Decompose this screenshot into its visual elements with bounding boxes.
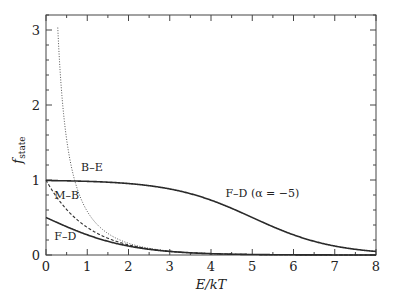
plot-frame [46,15,376,255]
x-tick-label: 5 [248,259,256,274]
x-tick-label: 7 [331,259,339,274]
curve-label: F–D [54,230,76,243]
curve-f-d-alpha-5 [46,181,376,252]
curves [46,28,376,255]
x-tick-label: 2 [124,259,132,274]
y-tick-label: 0 [32,248,40,263]
y-tick-label: 1 [32,173,40,188]
x-tick-label: 0 [42,259,50,274]
distribution-function-chart: 012345678 0123 B–EM–BF–DF–D (α = −5) E/k… [0,0,394,302]
plot-area-border [46,15,376,255]
x-tick-label: 4 [207,259,215,274]
y-tick-labels: 0123 [32,23,40,263]
curve-labels: B–EM–BF–DF–D (α = −5) [54,161,299,243]
y-axis-label: fstate [10,136,27,164]
y-tick-label: 2 [32,98,40,113]
x-tick-labels: 012345678 [42,259,380,274]
curve-label: M–B [54,189,79,202]
y-axis-label-sub: state [17,136,27,159]
svg-text:fstate: fstate [10,136,27,164]
x-tick-label: 1 [83,259,91,274]
y-tick-label: 3 [32,23,40,38]
x-axis-label: E/kT [195,277,228,292]
x-tick-label: 6 [289,259,297,274]
curve-label: F–D (α = −5) [225,187,299,200]
curve-b-e [58,28,376,255]
axis-ticks [46,15,376,255]
x-tick-label: 3 [166,259,174,274]
curve-label: B–E [81,161,103,174]
x-tick-label: 8 [372,259,380,274]
